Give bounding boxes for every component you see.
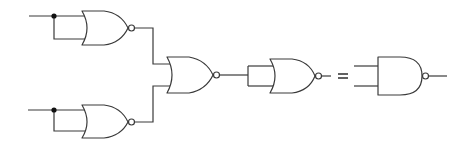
nor-gate-1-bubble: [129, 25, 135, 31]
nand-gate: [354, 57, 447, 95]
input-a-wiring: [29, 13, 86, 39]
nor-gate-1: [82, 11, 135, 45]
nor-gate-4: [270, 59, 331, 93]
junction-dot-a: [51, 13, 56, 18]
input-b-wiring: [28, 107, 86, 131]
nor-gate-3: [167, 57, 220, 93]
junction-dot-b: [51, 107, 56, 112]
nor-gate-2: [82, 105, 135, 138]
nand-gate-bubble: [423, 73, 429, 79]
logic-diagram: [0, 0, 472, 152]
equals-sign: [338, 74, 348, 78]
output-wiring: [220, 66, 275, 86]
nor-gate-2-bubble: [129, 119, 135, 125]
middle-wiring: [135, 28, 173, 122]
nor-gate-4-bubble: [316, 73, 322, 79]
nor-gate-3-bubble: [214, 72, 220, 78]
